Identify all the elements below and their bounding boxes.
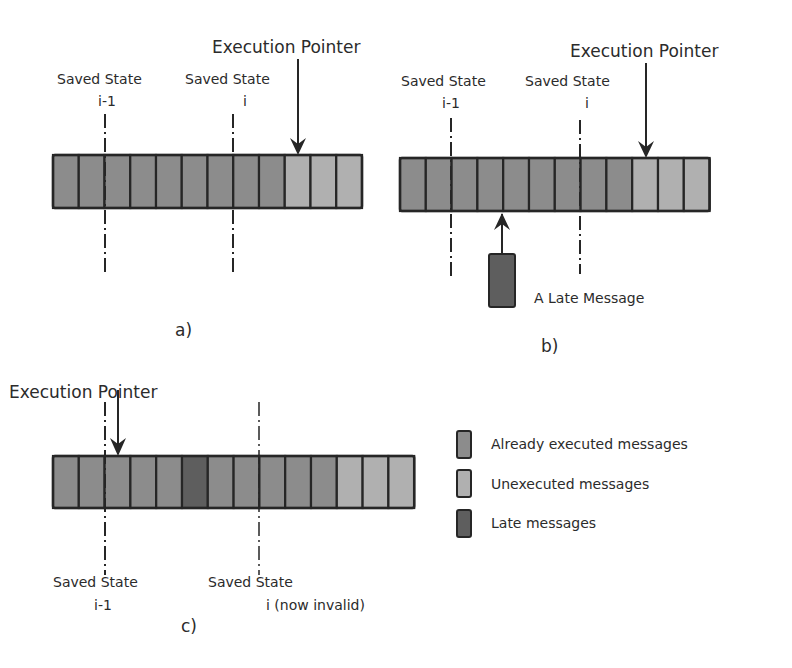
saved-state-label: Saved State [185, 71, 270, 87]
message-cell-executed [503, 158, 529, 211]
figure-caption-cropped [230, 660, 560, 668]
message-cell-executed [130, 155, 156, 208]
message-cell-executed [581, 158, 607, 211]
message-cell-executed [79, 155, 105, 208]
message-cell-executed [426, 158, 452, 211]
saved-state-index-invalid: i (now invalid) [266, 597, 365, 613]
message-replay-diagram: Execution Pointer Saved State i-1 Saved … [0, 0, 792, 668]
legend-label-late: Late messages [491, 515, 596, 531]
message-cell-executed [234, 456, 260, 508]
message-cell-executed [130, 456, 156, 508]
legend-swatch-unexecuted [457, 470, 471, 497]
execution-pointer-label: Execution Pointer [9, 382, 157, 402]
message-cell-executed [233, 155, 259, 208]
saved-state-label: Saved State [57, 71, 142, 87]
message-cell-late [182, 456, 208, 508]
saved-state-label: Saved State [401, 73, 486, 89]
message-bar [53, 456, 414, 508]
panel-b: Execution Pointer Saved State i-1 Saved … [400, 41, 718, 356]
message-cell-executed [182, 155, 208, 208]
panel-label: c) [181, 616, 197, 636]
message-cell-unexecuted [632, 158, 658, 211]
message-cell-unexecuted [285, 155, 311, 208]
legend: Already executed messages Unexecuted mes… [457, 431, 688, 537]
legend-label-executed: Already executed messages [491, 436, 688, 452]
saved-state-label: Saved State [525, 73, 610, 89]
late-message-block [489, 254, 515, 307]
execution-pointer-label: Execution Pointer [570, 41, 718, 61]
message-cell-unexecuted [684, 158, 710, 211]
legend-swatch-executed [457, 431, 471, 458]
message-cell-executed [105, 155, 131, 208]
panel-label: a) [175, 320, 192, 340]
legend-swatch-late [457, 510, 471, 537]
panel-a: Execution Pointer Saved State i-1 Saved … [53, 37, 362, 340]
saved-state-index: i-1 [442, 95, 460, 111]
message-cell-executed [53, 456, 79, 508]
message-cell-executed [259, 155, 285, 208]
message-cell-executed [477, 158, 503, 211]
message-cell-executed [156, 456, 182, 508]
legend-label-unexecuted: Unexecuted messages [491, 476, 649, 492]
saved-state-index: i [585, 95, 589, 111]
message-cell-executed [79, 456, 105, 508]
message-cell-unexecuted [336, 155, 362, 208]
message-cell-unexecuted [363, 456, 389, 508]
saved-state-label: Saved State [208, 574, 293, 590]
message-cell-executed [555, 158, 581, 211]
message-cell-executed [452, 158, 478, 211]
message-cell-executed [105, 456, 131, 508]
message-cell-unexecuted [388, 456, 414, 508]
panel-label: b) [541, 336, 558, 356]
message-cell-executed [208, 155, 234, 208]
message-bar [400, 158, 710, 211]
message-cell-executed [311, 456, 337, 508]
saved-state-index: i [243, 93, 247, 109]
message-bar [53, 155, 362, 208]
late-message-label: A Late Message [534, 290, 644, 306]
message-cell-executed [400, 158, 426, 211]
saved-state-label: Saved State [53, 574, 138, 590]
panel-c: Execution Pointer Saved State i-1 Saved … [9, 382, 414, 636]
message-cell-executed [529, 158, 555, 211]
message-cell-executed [208, 456, 234, 508]
execution-pointer-label: Execution Pointer [212, 37, 360, 57]
message-cell-unexecuted [337, 456, 363, 508]
message-cell-executed [606, 158, 632, 211]
saved-state-index: i-1 [94, 597, 112, 613]
saved-state-index: i-1 [98, 93, 116, 109]
message-cell-executed [156, 155, 182, 208]
message-cell-unexecuted [311, 155, 337, 208]
message-cell-executed [259, 456, 285, 508]
message-cell-unexecuted [658, 158, 684, 211]
message-cell-executed [53, 155, 79, 208]
message-cell-executed [285, 456, 311, 508]
